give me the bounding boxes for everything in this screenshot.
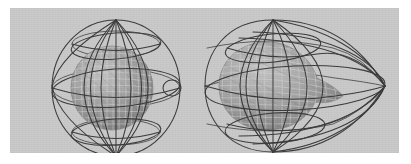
left-outer-wireframe-front: [51, 20, 181, 153]
figure-panel: [10, 8, 399, 153]
right-visualization: [195, 8, 399, 153]
left-wireframe-sphere-svg: [18, 8, 193, 153]
right-inner-mesh-blob: [215, 40, 347, 132]
figure-root: [0, 0, 411, 164]
right-wireframe-deformed-svg: [195, 8, 399, 153]
left-visualization: [18, 8, 193, 153]
